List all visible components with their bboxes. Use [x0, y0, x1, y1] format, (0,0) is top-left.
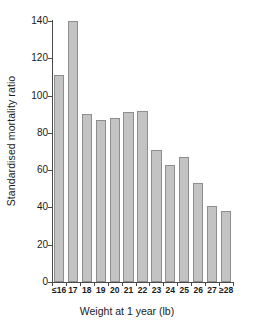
y-axis-tick-label: 60 — [20, 165, 48, 175]
x-axis-tick-label: 21 — [122, 285, 136, 295]
x-axis-tick-label: 20 — [108, 285, 122, 295]
x-axis-tick-label: 17 — [66, 285, 80, 295]
x-axis-tick-label: 19 — [94, 285, 108, 295]
x-axis-tick-labels: ≤161718192021222324252627≥28 — [52, 285, 233, 299]
x-axis-tick-label: 24 — [163, 285, 177, 295]
bar — [123, 112, 133, 282]
x-axis-tick-label: 25 — [177, 285, 191, 295]
bar — [110, 118, 120, 282]
x-axis-tick-label: 23 — [149, 285, 163, 295]
y-axis-tick-label: 100 — [20, 91, 48, 101]
y-axis-tick-label: 140 — [20, 16, 48, 26]
x-axis-tick-label: 22 — [136, 285, 150, 295]
bar — [193, 183, 203, 282]
x-axis-title: Weight at 1 year (lb) — [0, 305, 254, 317]
y-axis-title-text: Standardised mortality ratio — [5, 76, 17, 207]
x-axis-tick-label: 27 — [205, 285, 219, 295]
bar — [68, 21, 78, 282]
y-axis-tick-label: 120 — [20, 53, 48, 63]
bar-series — [52, 21, 233, 282]
x-axis-tick-label: 26 — [191, 285, 205, 295]
x-axis-tick-label: ≤16 — [52, 285, 66, 295]
y-axis-tick-label: 40 — [20, 202, 48, 212]
bar — [96, 120, 106, 282]
bar — [165, 165, 175, 282]
y-axis-title: Standardised mortality ratio — [0, 0, 22, 282]
x-axis-tick-mark — [233, 282, 234, 286]
x-axis-tick-label: 18 — [80, 285, 94, 295]
y-axis-tick-label: 0 — [20, 277, 48, 287]
y-axis-tick-label: 80 — [20, 128, 48, 138]
bar — [151, 150, 161, 282]
plot-area — [52, 21, 233, 282]
y-axis-tick-labels: 020406080100120140 — [20, 0, 48, 331]
bar — [82, 114, 92, 282]
y-axis-tick-label: 20 — [20, 240, 48, 250]
bar — [207, 206, 217, 282]
bar — [179, 157, 189, 282]
bar — [54, 75, 64, 282]
bar — [221, 211, 231, 282]
bar-chart-figure: Standardised mortality ratio 02040608010… — [0, 0, 254, 331]
bar — [137, 111, 147, 283]
x-axis-tick-label: ≥28 — [219, 285, 233, 295]
